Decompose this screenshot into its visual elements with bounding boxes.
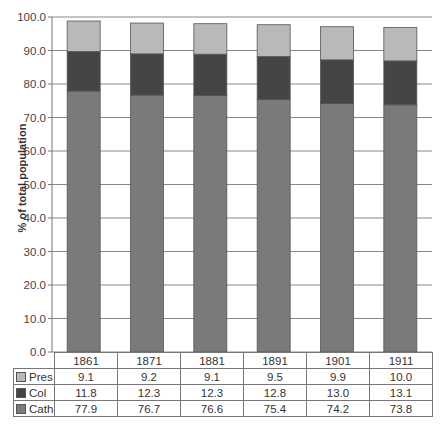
bar-segment-pres bbox=[321, 27, 354, 60]
legend-swatch-icon bbox=[16, 388, 26, 398]
bar-segment-cath bbox=[131, 95, 164, 352]
table-cell: 12.8 bbox=[244, 385, 307, 401]
bar-segment-pres bbox=[384, 27, 417, 61]
category-label: 1861 bbox=[55, 353, 118, 369]
table-cell: 9.1 bbox=[181, 369, 244, 385]
category-label: 1871 bbox=[118, 353, 181, 369]
y-tick-label: 20.0 bbox=[24, 279, 46, 291]
table-cell: 73.8 bbox=[370, 401, 433, 417]
legend-swatch-icon bbox=[16, 372, 26, 382]
bar-segment-cath bbox=[257, 99, 290, 352]
table-corner bbox=[14, 353, 55, 369]
table-header-row: 186118711881189119011911 bbox=[14, 353, 433, 369]
table-row: Cath77.976.776.675.474.273.8 bbox=[14, 401, 433, 417]
category-label: 1891 bbox=[244, 353, 307, 369]
table-cell: 76.6 bbox=[181, 401, 244, 417]
table-cell: 13.0 bbox=[307, 385, 370, 401]
legend-entry: Col bbox=[14, 385, 55, 401]
bar-segment-col bbox=[131, 54, 164, 95]
category-label: 1881 bbox=[181, 353, 244, 369]
y-tick-label: 10.0 bbox=[24, 313, 46, 325]
bar-segment-pres bbox=[194, 24, 227, 54]
table-row: Col11.812.312.312.813.013.1 bbox=[14, 385, 433, 401]
bar-segment-pres bbox=[257, 25, 290, 57]
table-cell: 76.7 bbox=[118, 401, 181, 417]
legend-entry: Pres bbox=[14, 369, 55, 385]
table-cell: 9.2 bbox=[118, 369, 181, 385]
y-tick-label: 80.0 bbox=[24, 78, 46, 90]
bar-segment-col bbox=[67, 52, 100, 92]
category-label: 1901 bbox=[307, 353, 370, 369]
bar-segment-cath bbox=[67, 91, 100, 352]
category-label: 1911 bbox=[370, 353, 433, 369]
y-tick-label: 100.0 bbox=[17, 11, 46, 23]
bar-segment-pres bbox=[67, 21, 100, 51]
table-row: Pres9.19.29.19.59.910.0 bbox=[14, 369, 433, 385]
legend-entry: Cath bbox=[14, 401, 55, 417]
data-table: 186118711881189119011911Pres9.19.29.19.5… bbox=[13, 352, 433, 417]
table-cell: 9.5 bbox=[244, 369, 307, 385]
table-cell: 12.3 bbox=[118, 385, 181, 401]
table-cell: 12.3 bbox=[181, 385, 244, 401]
y-axis-label: % of total population bbox=[16, 98, 28, 258]
bar-segment-cath bbox=[384, 105, 417, 352]
bar-segment-cath bbox=[194, 95, 227, 352]
bar-segment-col bbox=[194, 54, 227, 95]
table-cell: 75.4 bbox=[244, 401, 307, 417]
bar-segment-col bbox=[257, 57, 290, 100]
y-tick-label: 90.0 bbox=[24, 45, 46, 57]
bar-segment-col bbox=[321, 60, 354, 104]
table-cell: 77.9 bbox=[55, 401, 118, 417]
bar-segment-pres bbox=[131, 23, 164, 54]
table-cell: 10.0 bbox=[370, 369, 433, 385]
stacked-bar-chart: 0.010.020.030.040.050.060.070.080.090.01… bbox=[0, 0, 444, 433]
bar-segment-cath bbox=[321, 103, 354, 352]
table-cell: 11.8 bbox=[55, 385, 118, 401]
table-cell: 74.2 bbox=[307, 401, 370, 417]
table-cell: 13.1 bbox=[370, 385, 433, 401]
table-cell: 9.9 bbox=[307, 369, 370, 385]
legend-swatch-icon bbox=[16, 404, 26, 414]
bar-segment-col bbox=[384, 61, 417, 105]
table-cell: 9.1 bbox=[55, 369, 118, 385]
